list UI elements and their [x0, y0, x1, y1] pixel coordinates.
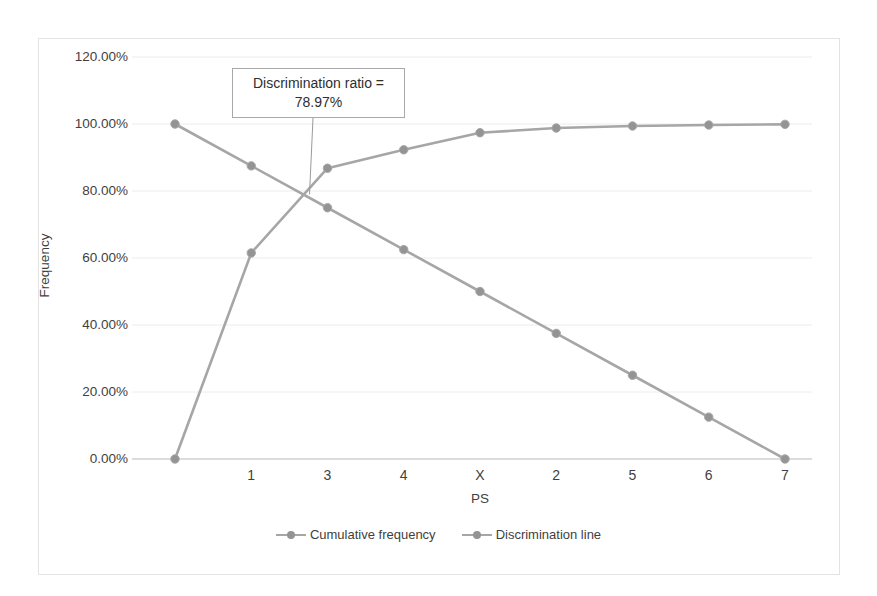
x-axis-tick-label: 1 — [247, 468, 255, 482]
x-axis-title: PS — [471, 491, 489, 506]
legend-item-discrimination-line[interactable]: Discrimination line — [462, 527, 601, 542]
legend-item-cumulative-frequency[interactable]: Cumulative frequency — [276, 527, 436, 542]
x-axis-tick-label: 4 — [400, 468, 408, 482]
y-axis-tick-label: 40.00% — [50, 318, 128, 332]
annotation-line-2: 78.97% — [295, 93, 342, 112]
x-axis-tick-label: 7 — [781, 468, 789, 482]
legend-marker-icon — [276, 529, 306, 541]
legend-label: Discrimination line — [496, 527, 601, 542]
y-axis-tick-label: 0.00% — [50, 452, 128, 466]
y-axis-tick-label: 80.00% — [50, 184, 128, 198]
chart-frame — [38, 38, 840, 575]
chart-legend: Cumulative frequency Discrimination line — [0, 527, 877, 542]
x-axis-tick-label: 6 — [705, 468, 713, 482]
annotation-callout: Discrimination ratio = 78.97% — [232, 68, 405, 118]
y-axis-title: Frequency — [37, 234, 52, 298]
x-axis-ticks: 134X2567 — [0, 468, 877, 490]
x-axis-tick-label: 3 — [324, 468, 332, 482]
legend-marker-icon — [462, 529, 492, 541]
y-axis-tick-label: 20.00% — [50, 385, 128, 399]
x-axis-tick-label: 5 — [629, 468, 637, 482]
x-axis-tick-label: X — [475, 468, 484, 482]
x-axis-tick-label: 2 — [552, 468, 560, 482]
legend-label: Cumulative frequency — [310, 527, 436, 542]
annotation-line-1: Discrimination ratio = — [253, 74, 384, 93]
y-axis-tick-label: 60.00% — [50, 251, 128, 265]
y-axis-ticks: 120.00%100.00%80.00%60.00%40.00%20.00%0.… — [50, 0, 128, 596]
y-axis-tick-label: 120.00% — [50, 50, 128, 64]
y-axis-tick-label: 100.00% — [50, 117, 128, 131]
